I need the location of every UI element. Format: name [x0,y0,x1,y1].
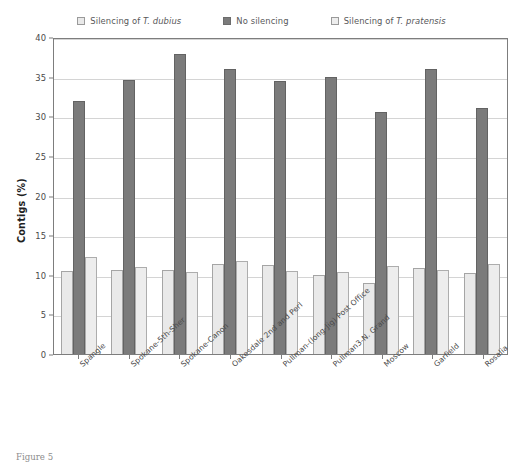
bar-group [406,39,456,354]
legend-swatch-icon [77,17,85,25]
y-axis-tick-mark [49,38,53,39]
bars-layer [54,39,507,354]
x-axis-tick-mark [78,355,79,359]
x-axis-label-slot: Moscow [356,355,407,425]
plot-area [53,38,508,355]
x-axis-tick-mark [331,355,332,359]
x-axis-label-slot: Spokane-5th-Sher [104,355,155,425]
y-axis-tick-label: 5 [41,310,46,320]
x-axis-tick-mark [129,355,130,359]
bar [425,69,437,354]
x-axis-tick-mark [281,355,282,359]
bar [123,80,135,354]
chart-legend: Silencing of T. dubiusNo silencingSilenc… [0,11,523,31]
legend-label: Silencing of T. pratensis [344,16,446,26]
bar [224,69,236,354]
legend-entry: Silencing of T. pratensis [331,16,446,26]
bar [476,108,488,354]
bar [488,264,500,354]
x-axis-label-slot: Pullman3-N. Grand [306,355,357,425]
bar [186,272,198,354]
legend-swatch-icon [331,17,339,25]
bar-group [457,39,507,354]
bar [85,257,97,354]
y-axis-tick-mark [49,156,53,157]
x-axis-label-slot: Pullman-(long-Jig) Post Office [255,355,306,425]
legend-label: No silencing [236,16,288,26]
y-axis-tick-label: 40 [35,33,46,43]
y-axis-tick-mark [49,196,53,197]
x-axis-tick-mark [483,355,484,359]
y-axis-tick-mark [49,275,53,276]
bar-group [205,39,255,354]
bar-group [54,39,104,354]
bar [413,268,425,354]
x-axis-tick-mark [382,355,383,359]
bar [135,267,147,354]
legend-swatch-icon [223,17,231,25]
x-axis-label-slot: Spokane-Canon [154,355,205,425]
bar [387,266,399,354]
bar-group [104,39,154,354]
x-axis-tick-mark [179,355,180,359]
y-axis-tick-label: 25 [35,152,46,162]
bar [174,54,186,354]
bar [111,270,123,354]
legend-label: Silencing of T. dubius [90,16,181,26]
y-axis-tick-label: 10 [35,271,46,281]
y-axis-tick-label: 35 [35,73,46,83]
bar [61,271,73,354]
y-axis-tick-mark [49,315,53,316]
y-axis-tick-label: 20 [35,192,46,202]
legend-entry: No silencing [223,16,288,26]
bar-group [155,39,205,354]
y-axis-tick-label: 30 [35,112,46,122]
x-axis-tick-mark [230,355,231,359]
x-axis-labels: SpangleSpokane-5th-SherSpokane-CanonOake… [53,355,508,425]
y-axis-tick-mark [49,77,53,78]
bar [236,261,248,355]
figure-container: Silencing of T. dubiusNo silencingSilenc… [0,0,523,468]
legend-entry: Silencing of T. dubius [77,16,181,26]
y-axis-tick-label: 0 [41,350,46,360]
bar-group [356,39,406,354]
x-axis-label-slot: Rosalia [458,355,509,425]
bar [73,101,85,354]
bar [464,273,476,354]
x-axis-label-slot: Garfield [407,355,458,425]
y-axis-tick-label: 15 [35,231,46,241]
x-axis-label-slot: Oakesdale 2nd and Perl [205,355,256,425]
figure-caption: Figure 5 [16,452,53,462]
x-axis-tick-mark [432,355,433,359]
y-axis-title: Contigs (%) [14,52,28,369]
bar [437,270,449,354]
y-axis-tick-mark [49,117,53,118]
x-axis-label-slot: Spangle [53,355,104,425]
y-axis-tick-mark [49,236,53,237]
